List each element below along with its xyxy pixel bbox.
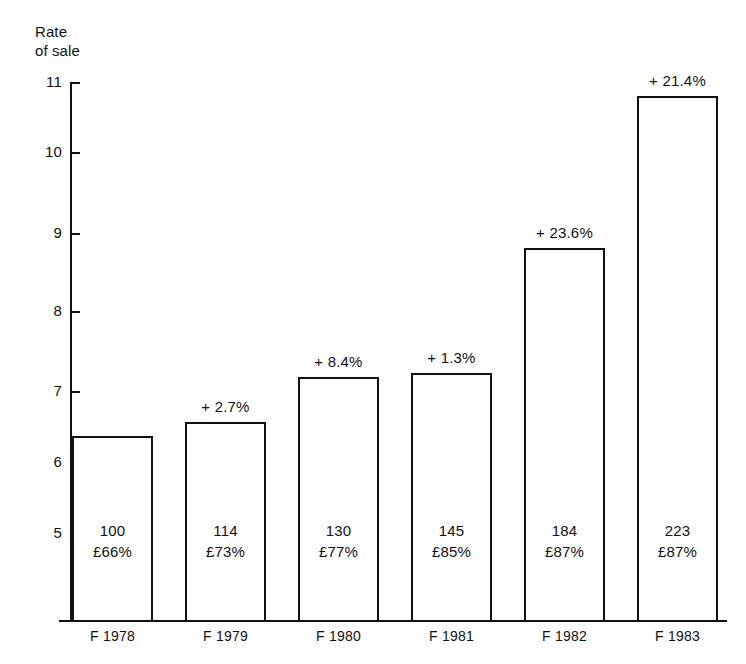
x-tick-label: F 1983 (637, 628, 718, 644)
bar: 130 £77% (298, 377, 379, 622)
y-tick-label: 10 (22, 143, 62, 160)
y-tick-mark (72, 311, 80, 313)
y-tick-mark (72, 391, 80, 393)
bar: 223 £87% (637, 96, 718, 622)
bar-inline-label: 130 £77% (300, 520, 377, 562)
bar: 145 £85% (411, 373, 492, 622)
bar-chart: Rate of sale 11 10 9 8 7 6 5 100 £66% F … (0, 0, 746, 664)
y-tick-mark (72, 233, 80, 235)
bar-inline-label: 100 £66% (74, 520, 151, 562)
x-tick-label: F 1978 (72, 628, 153, 644)
bar-delta-label: + 2.7% (185, 398, 266, 415)
y-tick-mark (72, 82, 80, 84)
bar-delta-label: + 8.4% (298, 353, 379, 370)
bar: 100 £66% (72, 436, 153, 622)
x-tick-label: F 1980 (298, 628, 379, 644)
y-tick-mark (72, 152, 80, 154)
y-tick-label: 9 (22, 224, 62, 241)
x-tick-label: F 1981 (411, 628, 492, 644)
x-tick-label: F 1979 (185, 628, 266, 644)
y-tick-label: 11 (22, 73, 62, 90)
bar-delta-label: + 21.4% (632, 72, 723, 89)
bar-inline-label: 223 £87% (639, 520, 716, 562)
bar-delta-label: + 1.3% (411, 349, 492, 366)
plot-area: 11 10 9 8 7 6 5 100 £66% F 1978 114 £73%… (0, 0, 746, 664)
y-tick-label: 8 (22, 302, 62, 319)
y-tick-label: 7 (22, 382, 62, 399)
bar-delta-label: + 23.6% (519, 224, 610, 241)
y-tick-label: 6 (22, 453, 62, 470)
y-tick-label: 5 (22, 524, 62, 541)
bar-inline-label: 184 £87% (526, 520, 603, 562)
bar-inline-label: 114 £73% (187, 520, 264, 562)
bar: 184 £87% (524, 248, 605, 622)
x-axis-line (59, 620, 727, 622)
bar-inline-label: 145 £85% (413, 520, 490, 562)
bar: 114 £73% (185, 422, 266, 622)
x-tick-label: F 1982 (524, 628, 605, 644)
